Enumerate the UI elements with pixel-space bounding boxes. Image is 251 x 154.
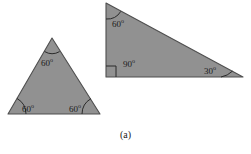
- degree-symbol-icon: o: [132, 58, 135, 64]
- figure-caption: (a): [0, 129, 251, 140]
- degree-symbol-icon: o: [78, 103, 81, 109]
- degree-symbol-icon: o: [213, 65, 216, 71]
- angle-label-60-apex: 60o: [41, 57, 53, 68]
- degree-symbol-icon: o: [50, 57, 53, 63]
- angle-label-30-bottom-right: 30o: [204, 65, 216, 76]
- figure-container: 60o 60o 60o 60o 90o 30o (a): [0, 0, 251, 154]
- angle-label-60-bottom-left: 60o: [22, 103, 34, 114]
- angle-label-60-top-left: 60o: [112, 18, 124, 29]
- degree-symbol-icon: o: [31, 103, 34, 109]
- angle-label-60-bottom-right: 60o: [69, 103, 81, 114]
- angle-label-90-bottom-left: 90o: [123, 58, 135, 69]
- degree-symbol-icon: o: [121, 18, 124, 24]
